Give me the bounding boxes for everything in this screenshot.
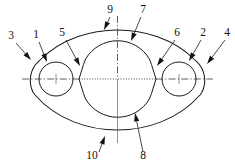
leader-line-6 bbox=[162, 40, 175, 59]
callout-label-10: 10 bbox=[86, 149, 98, 161]
callout-label-4: 4 bbox=[224, 26, 230, 38]
leader-line-10 bbox=[99, 144, 102, 152]
part-drawing-svg: 31597624108 bbox=[0, 0, 235, 166]
arrow-head-8 bbox=[134, 113, 139, 122]
callout-5: 5 bbox=[59, 26, 80, 66]
callout-label-8: 8 bbox=[140, 149, 146, 161]
arrow-head-7 bbox=[131, 32, 137, 41]
leader-line-9 bbox=[108, 17, 110, 22]
leader-line-4 bbox=[212, 40, 225, 57]
callout-label-9: 9 bbox=[107, 3, 113, 15]
callout-2: 2 bbox=[189, 26, 206, 61]
callout-1: 1 bbox=[33, 28, 47, 62]
technical-drawing-canvas: 31597624108 bbox=[0, 0, 235, 166]
callout-8: 8 bbox=[134, 113, 146, 161]
arrow-head-10 bbox=[100, 136, 105, 145]
arrow-head-6 bbox=[157, 58, 164, 66]
callout-label-1: 1 bbox=[33, 28, 39, 40]
arrow-head-9 bbox=[104, 21, 110, 30]
callout-layer: 31597624108 bbox=[8, 3, 230, 161]
callout-label-7: 7 bbox=[140, 3, 146, 15]
leader-line-3 bbox=[16, 43, 25, 54]
leader-line-8 bbox=[137, 121, 143, 152]
leader-line-1 bbox=[39, 42, 44, 54]
callout-label-2: 2 bbox=[200, 26, 206, 38]
callout-label-3: 3 bbox=[8, 29, 14, 41]
callout-7: 7 bbox=[131, 3, 146, 41]
callout-3: 3 bbox=[8, 29, 31, 60]
leader-line-5 bbox=[66, 40, 76, 59]
leader-line-2 bbox=[193, 40, 201, 54]
arrow-head-4 bbox=[207, 56, 214, 64]
arrow-head-5 bbox=[74, 57, 80, 66]
callout-9: 9 bbox=[104, 3, 113, 30]
callout-4: 4 bbox=[207, 26, 230, 64]
callout-label-5: 5 bbox=[59, 26, 65, 38]
callout-10: 10 bbox=[86, 136, 105, 161]
leader-line-7 bbox=[134, 17, 141, 33]
callout-label-6: 6 bbox=[174, 26, 180, 38]
